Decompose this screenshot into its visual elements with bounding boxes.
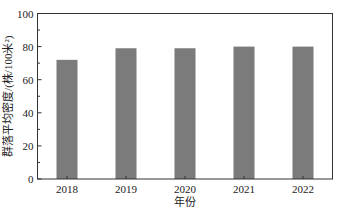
x-tick-label: 2022 (292, 183, 314, 195)
x-tick-label: 2018 (56, 183, 79, 195)
y-tick-label: 40 (23, 107, 35, 119)
y-axis-title: 群落平均密度/(株/100米²) (1, 35, 15, 157)
x-tick-label: 2020 (174, 183, 197, 195)
bar-2021 (234, 47, 255, 179)
bar-2020 (175, 48, 196, 179)
bar-2018 (57, 60, 78, 179)
x-tick-label: 2019 (115, 183, 138, 195)
y-tick-label: 60 (23, 74, 35, 86)
bar-2019 (116, 48, 137, 179)
x-tick-label: 2021 (233, 183, 255, 195)
y-tick-label: 100 (17, 8, 34, 20)
y-tick-label: 80 (23, 41, 35, 53)
x-axis-title: 年份 (174, 195, 196, 208)
bar-chart: 20182019202020212022 020406080100 年份 群落平… (0, 0, 339, 213)
y-tick-label: 0 (28, 173, 34, 185)
y-tick-label: 20 (23, 140, 35, 152)
bars-group (57, 47, 314, 179)
bar-2022 (293, 47, 314, 179)
